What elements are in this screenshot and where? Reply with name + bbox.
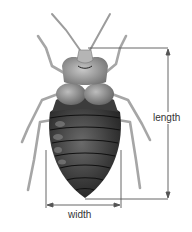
bed-bug-diagram: length width [0,0,192,232]
head [77,50,93,63]
width-label: width [68,209,91,221]
antennae [52,14,110,50]
wing-pad-right [84,83,114,105]
wing-pad-left [56,83,86,105]
length-label: length [152,112,181,124]
